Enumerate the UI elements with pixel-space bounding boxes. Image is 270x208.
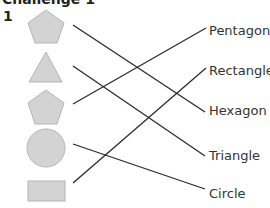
pentagon-icon — [28, 10, 64, 43]
label-pentagon: Pentagon — [209, 23, 270, 39]
circle-icon — [27, 129, 65, 167]
rectangle-icon — [28, 181, 65, 201]
connection-line — [73, 25, 205, 112]
connection-line — [73, 28, 206, 104]
label-hexagon: Hexagon — [209, 103, 267, 119]
label-rectangle: Rectangle — [209, 63, 270, 79]
label-circle: Circle — [209, 186, 246, 202]
pentagon-icon — [28, 90, 64, 124]
triangle-icon — [29, 52, 62, 82]
label-triangle: Triangle — [209, 148, 260, 164]
connection-line — [73, 68, 206, 183]
connection-line — [73, 66, 205, 156]
